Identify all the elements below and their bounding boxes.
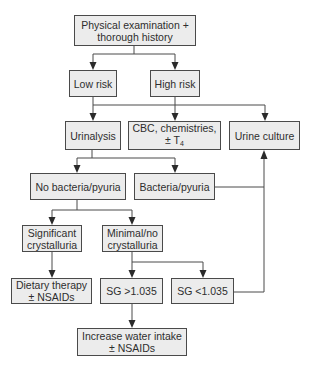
node-bacteria: Bacteria/pyuria [134, 173, 215, 200]
node-water-line1: Increase water intake [82, 330, 182, 342]
node-urine-culture: Urine culture [229, 121, 300, 150]
node-significant-line1: Significant [27, 227, 77, 239]
node-sg-low: SG <1.035 [171, 278, 234, 304]
node-physical-exam: Physical examination + thorough history [74, 15, 196, 46]
node-dietary-therapy: Dietary therapy ± NSAIDs [11, 278, 92, 304]
node-urinalysis-label: Urinalysis [70, 130, 116, 142]
node-cbc-chemistries: CBC, chemistries, ± T4 [128, 121, 221, 150]
arrowhead [90, 62, 97, 70]
node-low-risk: Low risk [69, 70, 117, 97]
node-cbc-line2: ± T4 [132, 134, 216, 150]
node-sg-high-label: SG >1.035 [106, 285, 157, 297]
node-minimal-line2: crystalluria [107, 239, 158, 251]
node-no-bacteria: No bacteria/pyuria [30, 173, 126, 200]
node-sg-low-label: SG <1.035 [177, 285, 228, 297]
node-cbc-t4-subscript: 4 [180, 140, 184, 147]
node-physical-exam-line2: thorough history [81, 31, 189, 43]
node-urinalysis: Urinalysis [65, 121, 121, 150]
node-high-risk: High risk [150, 70, 200, 97]
node-dietary-line2: ± NSAIDs [16, 291, 87, 303]
node-cbc-t4-prefix: ± T [165, 134, 180, 146]
node-urine-culture-label: Urine culture [235, 130, 295, 142]
node-minimal-line1: Minimal/no [107, 227, 158, 239]
node-water-line2: ± NSAIDs [82, 342, 182, 354]
node-cbc-line1: CBC, chemistries, [132, 122, 216, 134]
node-dietary-line1: Dietary therapy [16, 279, 87, 291]
node-no-bacteria-label: No bacteria/pyuria [35, 181, 120, 193]
node-minimal-crystalluria: Minimal/no crystalluria [102, 225, 163, 252]
node-sg-high: SG >1.035 [100, 278, 163, 304]
node-significant-crystalluria: Significant crystalluria [22, 225, 82, 252]
node-physical-exam-line1: Physical examination + [81, 19, 189, 31]
node-high-risk-label: High risk [155, 78, 196, 90]
node-low-risk-label: Low risk [74, 78, 113, 90]
node-increase-water: Increase water intake ± NSAIDs [77, 328, 187, 356]
node-bacteria-label: Bacteria/pyuria [139, 181, 209, 193]
node-significant-line2: crystalluria [27, 239, 77, 251]
